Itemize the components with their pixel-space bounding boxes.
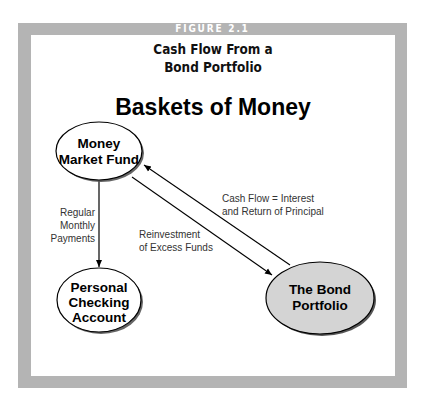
label-payments-line-2: Monthly <box>60 220 95 231</box>
node-checking-line-1: Personal <box>70 280 127 295</box>
label-reinvestment-line-2: of Excess Funds <box>139 242 213 253</box>
node-checking-line-2: Checking <box>69 295 130 310</box>
node-mmf-line-1: Money <box>78 136 121 151</box>
label-reinvestment: Reinvestment of Excess Funds <box>139 229 213 253</box>
flow-diagram: Money Market Fund Personal Checking Acco… <box>0 0 425 410</box>
edge-reinvestment <box>132 177 272 275</box>
node-personal-checking-account: Personal Checking Account <box>57 268 143 334</box>
label-cash-flow: Cash Flow = Interest and Return of Princ… <box>222 193 324 217</box>
node-money-market-fund: Money Market Fund <box>56 122 144 182</box>
label-payments-line-1: Regular <box>60 207 96 218</box>
node-bond-line-2: Portfolio <box>292 298 348 313</box>
label-payments: Regular Monthly Payments <box>51 207 96 244</box>
label-cash-flow-line-1: Cash Flow = Interest <box>222 193 314 204</box>
label-cash-flow-line-2: and Return of Principal <box>222 206 324 217</box>
label-payments-line-3: Payments <box>51 233 95 244</box>
node-checking-line-3: Account <box>72 310 127 325</box>
label-reinvestment-line-1: Reinvestment <box>139 229 200 240</box>
node-bond-portfolio: The Bond Portfolio <box>266 262 376 336</box>
node-bond-line-1: The Bond <box>289 282 351 297</box>
node-mmf-line-2: Market Fund <box>59 152 139 167</box>
